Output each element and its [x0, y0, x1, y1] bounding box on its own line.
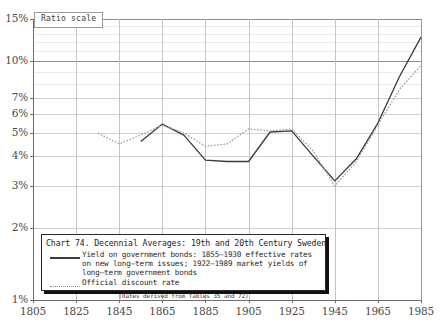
legend-swatch-solid-icon: [48, 253, 82, 263]
legend-swatch-dotted-icon: [48, 281, 82, 291]
legend-box: Chart 74. Decennial Averages: 19th and 2…: [41, 234, 326, 291]
chart-root: 15%10%7%6%5%4%3%2%1% 1805182518451865188…: [0, 0, 440, 325]
x-tick-label: 1805: [10, 305, 56, 317]
x-tick-label: 1885: [182, 305, 228, 317]
legend-entry-discount-label: Official discount rate: [82, 278, 321, 287]
y-tick-label: 10%: [0, 54, 28, 66]
ratio-scale-label: Ratio scale: [41, 14, 96, 23]
legend-source-note: (Rates derived from Tables 35 and 72): [42, 291, 325, 299]
y-tick-label: 3%: [0, 179, 28, 191]
x-tick-label: 1985: [398, 305, 440, 317]
legend-title: Chart 74. Decennial Averages: 19th and 2…: [42, 235, 325, 250]
legend-entry-discount: Official discount rate: [42, 278, 325, 291]
y-tick-label: 4%: [0, 149, 28, 161]
y-tick-label: 5%: [0, 126, 28, 138]
x-tick-label: 1825: [53, 305, 99, 317]
x-tick-label: 1905: [226, 305, 272, 317]
legend-entry-bonds-label: Yield on government bonds: 1855–1930 eff…: [82, 250, 321, 278]
y-tick-label: 6%: [0, 107, 28, 119]
y-tick-label: 7%: [0, 91, 28, 103]
x-tick-label: 1865: [139, 305, 185, 317]
x-tick-label: 1925: [269, 305, 315, 317]
legend-entry-bonds: Yield on government bonds: 1855–1930 eff…: [42, 250, 325, 278]
x-tick-label: 1845: [96, 305, 142, 317]
y-tick-label: 2%: [0, 221, 28, 233]
y-tick-label: 15%: [0, 12, 28, 24]
x-tick-label: 1945: [312, 305, 358, 317]
ratio-scale-badge: Ratio scale: [34, 12, 103, 28]
y-tick-label: 1%: [0, 293, 28, 305]
series-lines: [98, 37, 421, 186]
x-tick-label: 1965: [355, 305, 401, 317]
series-line: [98, 65, 421, 186]
